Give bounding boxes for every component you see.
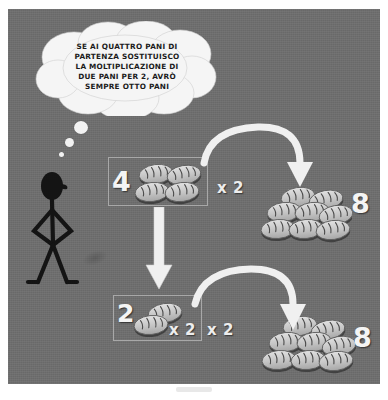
thought-line-2: PARTENZA SOSTITUISCO xyxy=(54,52,200,62)
count-label-two: 2 xyxy=(117,301,134,326)
scan-artifact xyxy=(176,387,212,392)
count-label-four: 4 xyxy=(112,168,131,195)
count-label-eight-top: 8 xyxy=(351,190,370,217)
bread-group-eight-top xyxy=(260,185,352,243)
thought-line-3: LA MOLTIPLICAZIONE DI xyxy=(54,62,200,72)
comic-panel: SE AI QUATTRO PANI DI PARTENZA SOSTITUIS… xyxy=(8,9,380,384)
thought-bubble-text: SE AI QUATTRO PANI DI PARTENZA SOSTITUIS… xyxy=(54,42,200,92)
bread-group-four xyxy=(130,161,210,207)
count-label-eight-bottom: 8 xyxy=(353,324,372,351)
multiplier-label-bottom-inner: x 2 xyxy=(169,323,196,338)
thought-dot-medium xyxy=(65,138,74,147)
stick-figure xyxy=(22,169,108,294)
thought-line-5: SEMPRE OTTO PANI xyxy=(54,82,200,92)
thought-line-4: DUE PANI PER 2, AVRÒ xyxy=(54,72,200,82)
comic-illustration: SE AI QUATTRO PANI DI PARTENZA SOSTITUIS… xyxy=(0,0,388,400)
multiplier-label-top: x 2 xyxy=(217,181,244,196)
thought-dot-small xyxy=(59,152,64,157)
thought-line-1: SE AI QUATTRO PANI DI xyxy=(54,42,200,52)
thought-dot-large xyxy=(74,121,88,134)
multiplier-label-bottom-outer: x 2 xyxy=(207,323,234,338)
arrow-down xyxy=(144,207,174,291)
thought-bubble: SE AI QUATTRO PANI DI PARTENZA SOSTITUIS… xyxy=(32,21,218,116)
